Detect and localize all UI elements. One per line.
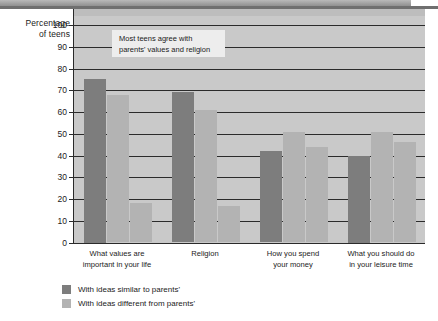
bar [283,132,306,243]
legend-label-different: With ideas different from parents' [78,299,195,308]
annotation-line2: parents' values and religion [119,45,225,56]
bar [218,206,241,243]
annotation-line1: Most teens agree with [119,34,225,45]
y-axis-tick-mark [69,112,73,113]
bar [172,92,195,242]
y-axis-tick-label: 0 [45,238,67,248]
legend-swatch-icon-different [62,299,71,308]
bar [394,142,417,242]
bar [371,132,394,243]
y-axis-tick-label: 100 [45,20,67,30]
y-axis-tick-mark [69,199,73,200]
y-axis-tick-label: 10 [45,216,67,226]
y-axis-tick-label: 40 [45,151,67,161]
y-axis-tick-label: 50 [45,129,67,139]
y-axis-tick-label: 70 [45,85,67,95]
y-axis-tick-mark [69,90,73,91]
legend-item-different: With ideas different from parents' [62,298,195,308]
y-axis-tick-mark [69,156,73,157]
x-axis-category-labels: What values areimportant in your lifeRel… [73,249,425,275]
legend-label-similar: With ideas similar to parents' [78,285,180,294]
bar [84,79,107,242]
bar [260,151,283,242]
bar [130,203,153,242]
x-axis-category-label-line: What you should do [323,249,438,260]
x-axis-category-label-line: in your leisure time [323,260,438,271]
y-axis-tick-label: 90 [45,42,67,52]
y-axis-tick-mark [69,177,73,178]
y-axis-tick-label: 80 [45,64,67,74]
y-axis-tick-mark [69,221,73,222]
y-axis-tick-mark [69,134,73,135]
y-axis-tick-label: 60 [45,107,67,117]
annotation-callout: Most teens agree with parents' values an… [112,30,225,57]
bar [107,95,130,243]
y-axis-title-line2: of teens [4,29,70,40]
x-axis-category-label: What you should doin your leisure time [323,249,438,270]
y-axis-tick-label: 20 [45,194,67,204]
legend: With ideas similar to parents' With idea… [62,284,195,312]
y-axis-tick-mark [69,69,73,70]
chart-page: Percentage of teens 10090807060504030201… [0,0,438,321]
y-axis-tick-mark [69,47,73,48]
y-axis-tick-label: 30 [45,172,67,182]
x-axis-category-label-line: important in your life [59,260,175,271]
bar [195,110,218,243]
y-axis-tick-mark [69,25,73,26]
legend-item-similar: With ideas similar to parents' [62,284,195,294]
bar [306,147,329,243]
bar [348,156,371,243]
y-axis-tick-mark [69,243,73,244]
legend-swatch-icon-similar [62,285,71,294]
